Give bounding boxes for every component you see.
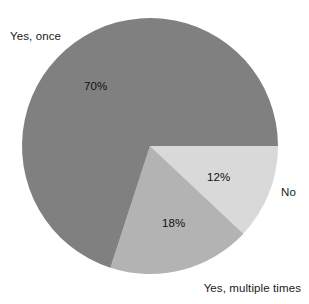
pie-label-yes-multiple-times: Yes, multiple times [204,283,301,295]
pie-value-yes-multiple-times: 18% [162,218,185,230]
pie-label-yes-once: Yes, once [10,31,61,43]
pie-chart: Yes, once No Yes, multiple times 70% 12%… [0,0,309,304]
pie-chart-canvas [0,0,309,304]
pie-value-yes-once: 70% [84,81,107,93]
pie-label-no: No [281,187,296,199]
pie-value-no: 12% [207,172,230,184]
